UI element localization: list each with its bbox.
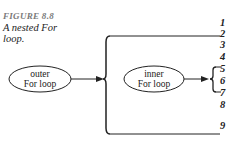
line-number-3: 3 — [220, 40, 225, 50]
inner-arrowhead-icon — [201, 76, 209, 82]
outer-loop-label-line2: For loop — [10, 79, 70, 89]
outer-loop-label: outer For loop — [10, 69, 70, 89]
line-number-2: 2 — [220, 29, 225, 39]
line-number-1: 1 — [220, 18, 225, 28]
line-number-8: 8 — [220, 100, 225, 110]
line-number-9: 9 — [220, 121, 225, 131]
line-number-6: 6 — [220, 76, 225, 86]
inner-brace — [210, 67, 216, 92]
outer-loop-label-line1: outer — [10, 69, 70, 79]
inner-loop-label-line1: inner — [124, 69, 184, 79]
line-number-5: 5 — [220, 64, 225, 74]
line-number-4: 4 — [220, 52, 225, 62]
line-number-7: 7 — [220, 88, 225, 98]
outer-brace — [103, 36, 110, 134]
inner-loop-label-line2: For loop — [124, 79, 184, 89]
inner-loop-label: inner For loop — [124, 69, 184, 89]
outer-arrowhead-icon — [96, 76, 104, 82]
